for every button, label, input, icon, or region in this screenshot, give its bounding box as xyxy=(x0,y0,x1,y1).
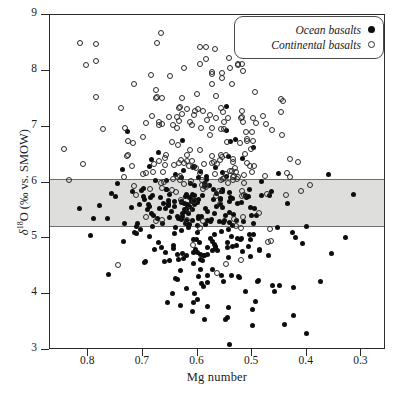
data-point-continental-basalt xyxy=(131,183,137,189)
data-point-continental-basalt xyxy=(227,65,233,71)
data-point-continental-basalt xyxy=(212,46,218,52)
data-point-ocean-basalt xyxy=(200,193,205,198)
data-point-ocean-basalt xyxy=(163,206,168,211)
data-point-ocean-basalt xyxy=(152,247,157,252)
data-point-ocean-basalt xyxy=(178,303,183,308)
filled-circle-icon xyxy=(368,26,375,33)
x-axis-title: Mg number xyxy=(49,370,385,385)
data-point-ocean-basalt xyxy=(186,225,191,230)
data-point-continental-basalt xyxy=(93,41,99,47)
data-point-ocean-basalt xyxy=(105,216,110,221)
data-point-continental-basalt xyxy=(169,187,175,193)
data-point-continental-basalt xyxy=(197,225,203,231)
data-point-continental-basalt xyxy=(249,129,255,135)
data-point-continental-basalt xyxy=(181,160,187,166)
data-point-ocean-basalt xyxy=(223,213,228,218)
x-tick-label: 0.4 xyxy=(286,354,326,366)
data-point-continental-basalt xyxy=(197,44,203,50)
data-point-continental-basalt xyxy=(129,163,135,169)
x-tick-label: 0.3 xyxy=(340,354,380,366)
data-point-ocean-basalt xyxy=(226,255,231,260)
data-point-ocean-basalt xyxy=(225,245,230,250)
data-point-continental-basalt xyxy=(200,108,206,114)
data-point-continental-basalt xyxy=(280,98,286,104)
data-point-ocean-basalt xyxy=(129,205,134,210)
data-point-continental-basalt xyxy=(93,58,99,64)
legend-label-ocean-basalts: Ocean basalts xyxy=(296,24,361,36)
data-point-ocean-basalt xyxy=(205,280,210,285)
data-point-continental-basalt xyxy=(93,94,99,100)
data-point-ocean-basalt xyxy=(272,289,277,294)
data-point-ocean-basalt xyxy=(253,299,258,304)
data-point-ocean-basalt xyxy=(169,209,174,214)
data-point-continental-basalt xyxy=(169,139,175,145)
data-point-continental-basalt xyxy=(143,120,149,126)
data-point-continental-basalt xyxy=(260,113,266,119)
data-point-ocean-basalt xyxy=(91,216,96,221)
data-point-continental-basalt xyxy=(189,158,195,164)
data-point-ocean-basalt xyxy=(173,276,178,281)
data-point-ocean-basalt xyxy=(147,234,152,239)
data-point-continental-basalt xyxy=(153,218,159,224)
data-point-ocean-basalt xyxy=(212,232,217,237)
data-point-continental-basalt xyxy=(166,114,172,120)
data-point-ocean-basalt xyxy=(195,297,200,302)
data-point-continental-basalt xyxy=(218,152,224,158)
data-point-ocean-basalt xyxy=(180,251,185,256)
data-point-ocean-basalt xyxy=(150,193,155,198)
data-point-continental-basalt xyxy=(66,177,72,183)
data-point-continental-basalt xyxy=(307,182,313,188)
data-point-ocean-basalt xyxy=(240,249,245,254)
data-point-ocean-basalt xyxy=(318,279,323,284)
data-point-continental-basalt xyxy=(148,72,154,78)
y-tick xyxy=(41,182,49,183)
data-point-continental-basalt xyxy=(253,120,259,126)
data-point-ocean-basalt xyxy=(293,235,298,240)
data-point-ocean-basalt xyxy=(205,273,210,278)
data-point-continental-basalt xyxy=(125,152,131,158)
y-tick xyxy=(41,70,49,71)
data-point-ocean-basalt xyxy=(225,315,230,320)
y-tick xyxy=(41,237,49,238)
data-point-continental-basalt xyxy=(176,118,182,124)
data-point-ocean-basalt xyxy=(150,224,155,229)
data-point-ocean-basalt xyxy=(210,239,215,244)
data-point-continental-basalt xyxy=(115,262,121,268)
data-point-continental-basalt xyxy=(179,95,185,101)
data-point-ocean-basalt xyxy=(255,279,260,284)
chart-legend: Ocean basalts Continental basalts xyxy=(234,16,384,59)
data-point-continental-basalt xyxy=(256,210,262,216)
x-tick-label: 0.8 xyxy=(67,354,107,366)
data-point-continental-basalt xyxy=(179,111,185,117)
data-point-ocean-basalt xyxy=(165,300,170,305)
data-point-continental-basalt xyxy=(263,121,269,127)
data-point-continental-basalt xyxy=(178,197,184,203)
data-point-ocean-basalt xyxy=(229,234,234,239)
data-point-ocean-basalt xyxy=(291,313,296,318)
data-point-ocean-basalt xyxy=(270,283,275,288)
data-point-ocean-basalt xyxy=(205,304,210,309)
data-point-continental-basalt xyxy=(242,151,248,157)
data-point-continental-basalt xyxy=(80,161,86,167)
data-point-continental-basalt xyxy=(176,105,182,111)
data-point-continental-basalt xyxy=(176,160,182,166)
open-circle-icon xyxy=(368,41,375,48)
data-point-ocean-basalt xyxy=(190,309,195,314)
data-point-ocean-basalt xyxy=(200,258,205,263)
data-point-ocean-basalt xyxy=(192,183,197,188)
data-point-ocean-basalt xyxy=(326,172,331,177)
data-point-ocean-basalt xyxy=(143,259,148,264)
data-point-continental-basalt xyxy=(198,125,204,131)
data-point-continental-basalt xyxy=(229,81,235,87)
data-point-ocean-basalt xyxy=(181,256,186,261)
data-point-ocean-basalt xyxy=(247,187,252,192)
data-points-layer xyxy=(50,15,384,348)
data-point-continental-basalt xyxy=(278,109,284,115)
data-point-ocean-basalt xyxy=(230,196,235,201)
data-point-ocean-basalt xyxy=(88,233,93,238)
data-point-ocean-basalt xyxy=(219,273,224,278)
data-point-ocean-basalt xyxy=(250,323,255,328)
data-point-continental-basalt xyxy=(207,132,213,138)
data-point-ocean-basalt xyxy=(229,273,234,278)
data-point-continental-basalt xyxy=(252,89,258,95)
